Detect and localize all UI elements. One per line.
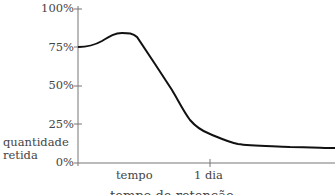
caption-clipped: tempo de retenção xyxy=(110,189,234,195)
y-axis-label-line2: retida xyxy=(3,149,38,162)
x-tick-1-dia: 1 dia xyxy=(194,169,223,182)
retention-curve xyxy=(78,33,335,148)
y-tick-50: 50% xyxy=(4,79,74,92)
y-tick-25: 25% xyxy=(4,118,74,131)
y-tick-100: 100% xyxy=(4,2,74,15)
x-axis-label: tempo xyxy=(116,169,153,182)
y-tick-75: 75% xyxy=(4,41,74,54)
